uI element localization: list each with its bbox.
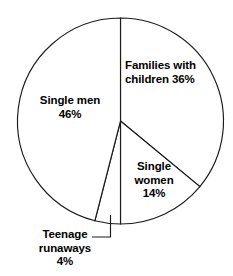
pie-chart: Families with children 36% Single men 46… xyxy=(0,0,233,276)
slice-label-line: Single xyxy=(137,160,171,172)
slice-label-single-men: Single men 46% xyxy=(28,94,112,121)
slice-label-line: Families with xyxy=(125,59,196,71)
slice-label-line: Teenage xyxy=(42,228,87,240)
slice-label-line: 14% xyxy=(143,187,166,199)
slice-label-line: women xyxy=(134,174,173,186)
slice-label-line: runaways xyxy=(39,242,91,254)
slice-label-line: 46% xyxy=(59,108,82,120)
slice-label-single-women: Single women 14% xyxy=(123,160,185,201)
slice-label-teenage-runaways: Teenage runaways 4% xyxy=(22,228,108,269)
slice-label-line: children 36% xyxy=(125,73,195,85)
slice-label-families-with-children: Families with children 36% xyxy=(125,59,196,86)
slice-label-line: Single men xyxy=(40,94,100,106)
slice-label-line: 4% xyxy=(57,255,73,267)
